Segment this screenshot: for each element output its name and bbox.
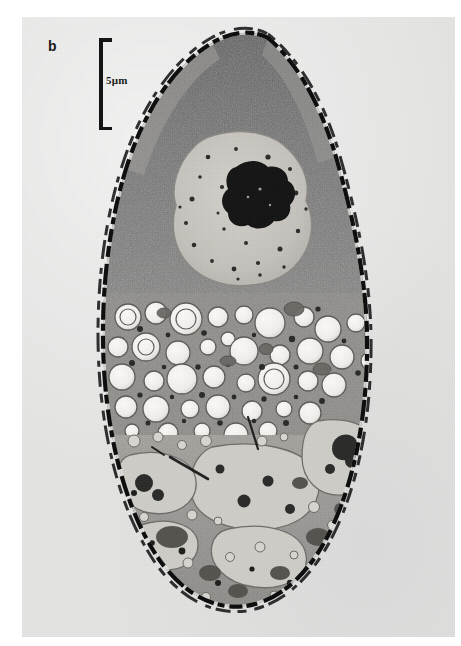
cell-render xyxy=(22,17,455,637)
cell-interior xyxy=(22,17,455,637)
scale-bar-stem xyxy=(99,38,103,130)
panel-letter: b xyxy=(48,39,57,53)
scale-bar-label: 5μm xyxy=(106,74,128,86)
scale-bar-bottom-tick xyxy=(99,127,112,131)
cell-image xyxy=(22,17,455,637)
micrograph-photo-print: b 5μm xyxy=(22,17,455,637)
